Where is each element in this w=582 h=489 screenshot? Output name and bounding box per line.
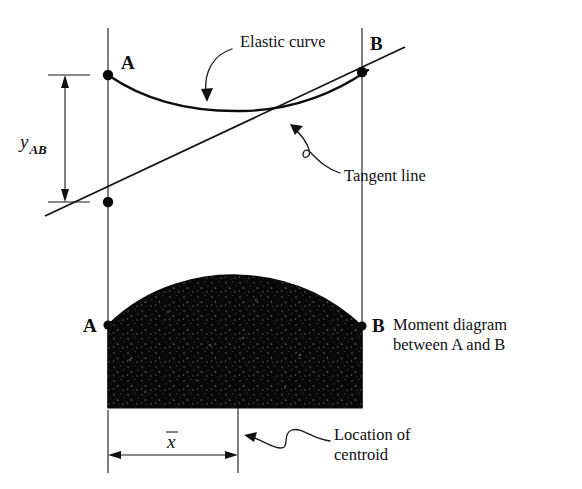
label-tangent-line: Tangent line: [344, 166, 426, 185]
label-deviation-subscript: AB: [28, 142, 47, 157]
label-location-line1: Location of: [334, 425, 411, 444]
node-dot-tangent-at-a: [103, 197, 113, 207]
figure-root: A B yAB Elastic curve Tangent line: [0, 0, 582, 489]
node-dot-b-upper: [357, 67, 367, 77]
node-dot-a-lower: [103, 320, 112, 329]
label-point-b-upper: B: [370, 33, 383, 54]
label-centroid-var: x: [166, 431, 176, 452]
label-deviation-var: y: [18, 131, 29, 152]
label-elastic-curve: Elastic curve: [240, 32, 326, 51]
label-point-a-upper: A: [121, 52, 135, 73]
label-location-line2: centroid: [334, 445, 389, 464]
beam-deflection-moment-area-diagram: A B yAB Elastic curve Tangent line: [0, 0, 582, 489]
label-point-a-lower: A: [83, 315, 97, 336]
label-moment-diagram-line2: between A and B: [393, 335, 505, 354]
page-background: [0, 0, 582, 489]
label-moment-diagram-line1: Moment diagram: [393, 315, 507, 334]
label-point-b-lower: B: [372, 315, 385, 336]
node-dot-b-lower: [357, 321, 366, 330]
node-dot-a-upper: [103, 70, 113, 80]
